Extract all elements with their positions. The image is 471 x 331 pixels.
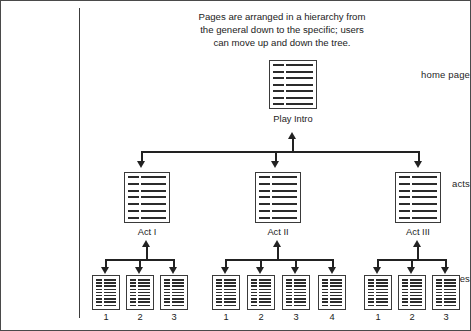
connector-line (225, 259, 333, 261)
node-icon-act-2-scene-1[interactable] (212, 275, 240, 310)
node-icon-act-3-scene-2[interactable] (398, 275, 426, 310)
page-line (273, 97, 313, 99)
node-label-act-2: Act II (238, 227, 318, 237)
caption-line-3: can move up and down the tree. (161, 36, 403, 49)
page-line (216, 289, 236, 291)
page-line (436, 298, 456, 300)
connector-line (417, 246, 419, 259)
page-line (436, 295, 456, 297)
node-icon-act-2[interactable] (255, 172, 301, 223)
page-line (251, 295, 271, 297)
page-line (259, 210, 297, 212)
page-line (368, 289, 388, 291)
page-line (251, 305, 271, 307)
page-line (216, 301, 236, 303)
page-line (216, 295, 236, 297)
page-line (286, 289, 306, 291)
page-line (368, 285, 388, 287)
node-label-act-3: Act III (378, 227, 458, 237)
node-label-act-2-scene-3: 3 (276, 312, 316, 322)
page-line (259, 203, 297, 205)
page-line (259, 190, 297, 192)
page-line (259, 196, 297, 198)
page-line (130, 305, 150, 307)
node-icon-act-3[interactable] (395, 172, 441, 223)
page-line (130, 282, 150, 284)
page-line (130, 298, 150, 300)
page-line (368, 298, 388, 300)
node-icon-play-intro[interactable] (269, 60, 317, 109)
page-line (368, 279, 388, 281)
node-icon-act-3-scene-1[interactable] (364, 275, 392, 310)
page-line (368, 292, 388, 294)
arrow-down-icon (221, 267, 229, 274)
page-line (216, 279, 236, 281)
page-line (402, 295, 422, 297)
page-line (286, 282, 306, 284)
page-line (259, 176, 297, 178)
page-line (96, 282, 116, 284)
page-line (273, 64, 313, 66)
page-line (273, 71, 313, 73)
page-line (164, 305, 184, 307)
page-line (164, 292, 184, 294)
node-icon-act-1-scene-3[interactable] (160, 275, 188, 310)
page-line (96, 298, 116, 300)
page-line (402, 292, 422, 294)
connector-line (146, 246, 148, 259)
page-line (399, 217, 437, 219)
page-line (322, 298, 342, 300)
node-label-play-intro: Play Intro (253, 114, 333, 124)
page-line (130, 292, 150, 294)
connector-line (141, 151, 419, 153)
page-line (273, 84, 313, 86)
page-line (322, 282, 342, 284)
arrow-down-icon (414, 161, 422, 168)
arrow-down-icon (291, 267, 299, 274)
caption-line-2: the general down to the specific; users (161, 23, 403, 36)
page-line (251, 282, 271, 284)
node-icon-act-1-scene-2[interactable] (126, 275, 154, 310)
page-line (286, 298, 306, 300)
page-line (436, 279, 456, 281)
page-line (130, 285, 150, 287)
arrow-up-icon (273, 240, 281, 247)
page-line (128, 203, 166, 205)
row-label-home-page: home page (398, 69, 470, 80)
arrow-up-icon (413, 240, 421, 247)
page-line (322, 301, 342, 303)
node-label-act-3-scene-3: 3 (426, 312, 466, 322)
page-line (251, 298, 271, 300)
page-line (402, 301, 422, 303)
arrow-up-icon (288, 132, 296, 139)
node-icon-act-3-scene-3[interactable] (432, 275, 460, 310)
page-line (402, 305, 422, 307)
page-line (322, 289, 342, 291)
node-icon-act-2-scene-2[interactable] (247, 275, 275, 310)
page-line (273, 103, 313, 105)
page-line (273, 90, 313, 92)
page-line (128, 196, 166, 198)
page-line (436, 285, 456, 287)
page-line (399, 183, 437, 185)
connector-line (277, 246, 279, 259)
node-icon-act-2-scene-4[interactable] (318, 275, 346, 310)
page-line (130, 279, 150, 281)
page-line (128, 183, 166, 185)
node-icon-act-1[interactable] (124, 172, 170, 223)
page-line (128, 210, 166, 212)
page-line (286, 305, 306, 307)
node-icon-act-2-scene-3[interactable] (282, 275, 310, 310)
page-line (164, 295, 184, 297)
page-line (130, 295, 150, 297)
page-line (368, 301, 388, 303)
page-line (399, 190, 437, 192)
node-label-act-1-scene-3: 3 (154, 312, 194, 322)
arrow-down-icon (256, 267, 264, 274)
page-line (96, 292, 116, 294)
arrow-up-icon (142, 240, 150, 247)
page-line (251, 279, 271, 281)
page-line (128, 176, 166, 178)
arrow-down-icon (373, 267, 381, 274)
node-icon-act-1-scene-1[interactable] (92, 275, 120, 310)
